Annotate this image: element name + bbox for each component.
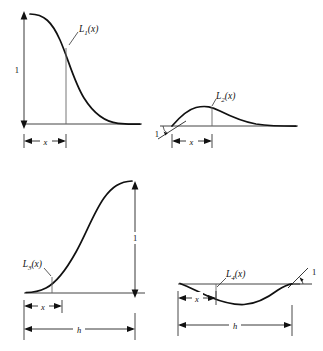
panel-2-x-arrowhead-right: [204, 138, 212, 144]
panel-3-dim-arrowhead-up: [132, 181, 139, 190]
panel-3-x-arrowhead-left: [24, 303, 32, 309]
panel-4-curve-label-arg: (x): [235, 269, 246, 280]
panel-3-h-label: h: [77, 325, 81, 335]
panel-1-curve-label-arg: (x): [88, 24, 99, 35]
panel-2-curve-label: L2(x): [215, 91, 235, 104]
panel-1-x-arrowhead-left: [24, 138, 32, 144]
panel-3-label-leader: [44, 268, 51, 276]
panel-4-x-arrowhead-left: [178, 295, 186, 301]
panel-2-slope-arc: [163, 126, 168, 133]
panel-3-group: 1 L3(x) x h: [22, 181, 145, 340]
panel-3-unit-dimension: 1: [130, 181, 140, 298]
panel-4-slope-arc-arrowhead: [300, 278, 304, 282]
panel-4-h-label: h: [233, 321, 237, 331]
panel-1-label-leader: [69, 32, 78, 45]
panel-3-x-label: x: [40, 302, 45, 312]
panel-2-curve-label-arg: (x): [225, 91, 236, 102]
panel-3-x-arrowhead-right: [54, 303, 62, 309]
panel-3-h-arrowhead-right: [127, 326, 135, 332]
panel-3-curve-label-arg: (x): [31, 259, 42, 270]
panel-1-unit-label: 1: [15, 65, 19, 75]
panel-3-h-arrowhead-left: [24, 326, 32, 332]
panel-3-curve-label: L3(x): [22, 259, 42, 272]
panel-4-curve-label: L4(x): [225, 269, 245, 282]
panel-1-x-arrowhead-right: [58, 138, 66, 144]
panel-3-h-dimension: h: [24, 313, 135, 340]
panel-2-x-arrowhead-left: [172, 138, 180, 144]
panel-2-curve: [172, 106, 296, 126]
hermite-basis-function-figure: 1 L1(x) x 1: [0, 0, 323, 351]
panel-4-h-dimension: h: [178, 305, 292, 336]
panel-4-x-label: x: [194, 294, 199, 304]
panel-2-x-dimension: x: [172, 134, 212, 148]
panel-2-slope-label: 1: [155, 129, 159, 139]
panel-1-x-label: x: [43, 137, 48, 147]
panel-1-dim-arrowhead-up: [21, 11, 28, 20]
panel-1-unit-dimension: 1: [15, 11, 28, 129]
panel-4-group: 1 L4(x) x h: [178, 267, 316, 336]
panel-4-x-arrowhead-right: [208, 295, 216, 301]
panel-3-unit-label: 1: [133, 233, 137, 243]
panel-4-label-leader: [217, 278, 226, 287]
figure-canvas: 1 L1(x) x 1: [0, 0, 323, 351]
panel-1-group: 1 L1(x) x: [15, 11, 142, 148]
panel-3-dim-arrowhead-down: [132, 290, 139, 299]
panel-4-slope-label: 1: [312, 267, 316, 277]
panel-2-slope-marker: 1: [155, 121, 186, 139]
panel-4-h-arrowhead-right: [284, 322, 292, 328]
panel-2-x-label: x: [189, 137, 194, 147]
panel-4-h-arrowhead-left: [178, 322, 186, 328]
panel-4-x-dimension: x: [178, 291, 216, 305]
panel-1-dim-arrowhead-down: [21, 121, 28, 130]
panel-3-x-dimension: x: [24, 300, 62, 313]
panel-1-x-dimension: x: [24, 134, 66, 148]
panel-1-curve-label: L1(x): [78, 24, 98, 37]
panel-3-curve: [26, 181, 132, 293]
panel-4-slope-tangent: [288, 268, 308, 288]
panel-4-slope-marker: 1: [288, 267, 316, 288]
panel-2-group: 1 L2(x) x: [155, 91, 298, 148]
